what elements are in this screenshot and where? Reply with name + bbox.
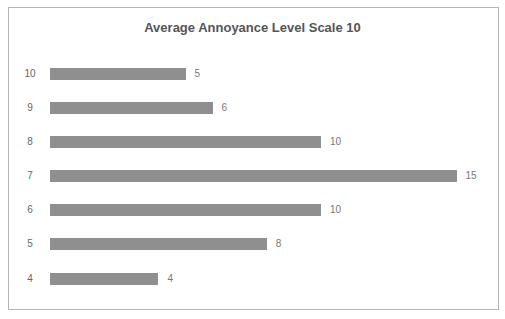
category-label: 8 [20, 135, 40, 149]
bar [50, 204, 321, 216]
value-label: 5 [195, 67, 201, 81]
bar-row: 44 [0, 272, 505, 286]
value-label: 8 [276, 237, 282, 251]
value-label: 6 [222, 101, 228, 115]
bar [50, 238, 267, 250]
bar [50, 102, 213, 114]
value-label: 4 [167, 272, 173, 286]
bar-row: 96 [0, 101, 505, 115]
category-label: 10 [20, 67, 40, 81]
category-label: 5 [20, 237, 40, 251]
category-label: 6 [20, 203, 40, 217]
bar [50, 136, 321, 148]
category-label: 4 [20, 272, 40, 286]
category-label: 7 [20, 169, 40, 183]
value-label: 15 [466, 169, 477, 183]
bar [50, 170, 457, 182]
chart-frame [8, 7, 499, 310]
value-label: 10 [330, 203, 341, 217]
bar-row: 610 [0, 203, 505, 217]
value-label: 10 [330, 135, 341, 149]
bar-row: 58 [0, 237, 505, 251]
bar-row: 810 [0, 135, 505, 149]
bar [50, 68, 186, 80]
bar [50, 273, 158, 285]
chart-title: Average Annoyance Level Scale 10 [0, 20, 505, 35]
bar-row: 715 [0, 169, 505, 183]
bar-row: 105 [0, 67, 505, 81]
category-label: 9 [20, 101, 40, 115]
